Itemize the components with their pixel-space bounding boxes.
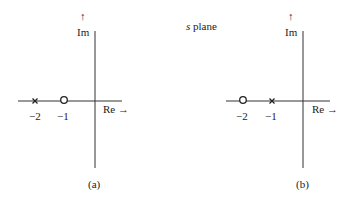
im-label-b: Im <box>285 27 297 38</box>
s-variable: s <box>186 20 190 32</box>
plane-text: plane <box>193 20 217 32</box>
im-arrow-icon-a: ↑ <box>80 11 86 22</box>
panel-b <box>226 31 330 168</box>
zero-label-a: −1 <box>57 111 69 122</box>
s-plane-title: s plane <box>186 21 217 32</box>
caption-a: (a) <box>88 179 100 190</box>
panel-a <box>18 31 122 168</box>
im-label-a: Im <box>77 27 89 38</box>
pole-zero-diagrams <box>0 0 350 207</box>
re-label-a: Re → <box>103 104 129 115</box>
pole-label-b: −1 <box>265 111 277 122</box>
pole-label-a: −2 <box>29 111 41 122</box>
re-label-b: Re → <box>312 104 338 115</box>
im-arrow-icon-b: ↑ <box>288 11 294 22</box>
zero-label-b: −2 <box>236 111 248 122</box>
zero-circle-icon <box>240 97 247 104</box>
caption-b: (b) <box>296 179 309 190</box>
zero-circle-icon <box>61 97 68 104</box>
